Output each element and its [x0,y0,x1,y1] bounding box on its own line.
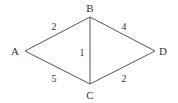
node-label-d: D [159,45,167,57]
edge-weight-b-c: 1 [80,47,85,58]
node-label-a: A [11,45,19,57]
edge-weight-a-c: 5 [52,73,57,84]
node-label-c: C [86,89,93,101]
edge-weight-b-d: 4 [122,21,127,32]
edge-weight-a-b: 2 [52,21,57,32]
node-label-b: B [86,2,93,14]
node-labels-group: ABCD [11,2,167,101]
edge-a-b [25,17,90,51]
edge-weight-c-d: 2 [122,73,127,84]
edges-group [25,17,155,84]
graph-diagram: 24152 ABCD [0,0,178,103]
